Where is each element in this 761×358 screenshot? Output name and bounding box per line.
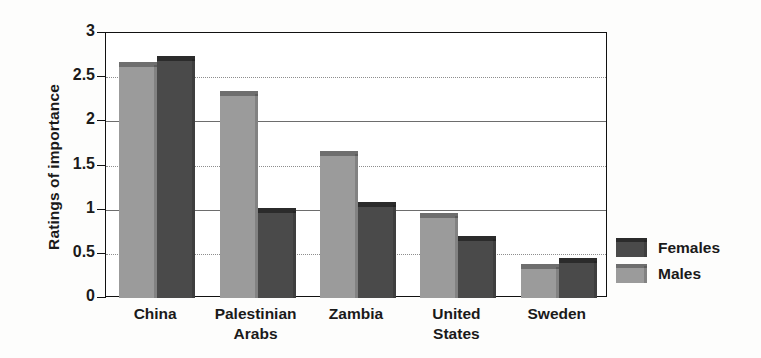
bar-front-face: [358, 207, 396, 298]
legend-label-females: Females: [658, 236, 720, 259]
bar-front-face: [157, 61, 195, 298]
bar-front-face: [559, 263, 597, 298]
y-axis-tick-label: 3: [35, 23, 95, 39]
bar-side-shade: [255, 94, 258, 298]
y-axis-tick: [97, 209, 106, 210]
y-axis-tick-label: 1: [35, 200, 95, 216]
bar-front-face: [458, 241, 496, 298]
bar-side-shade: [355, 154, 358, 298]
legend-label-males: Males: [658, 262, 701, 285]
bar-males-sweden: [521, 264, 559, 298]
y-axis-tick-label: 0: [35, 288, 95, 304]
bar-males-china: [119, 62, 157, 298]
bar-females-palestinian-arabs: [258, 208, 296, 298]
y-axis-tick: [97, 76, 106, 77]
bar-side-shade: [192, 59, 195, 298]
bar-front-face: [320, 156, 358, 298]
y-axis-tick: [97, 165, 106, 166]
plot-inner: [106, 33, 606, 296]
legend-swatch-females-icon: [616, 238, 647, 257]
bar-side-shade: [455, 216, 458, 298]
bar-males-zambia: [320, 151, 358, 298]
y-axis-tick-label: 2.5: [35, 67, 95, 83]
bar-front-face: [258, 213, 296, 298]
bar-front-face: [220, 96, 258, 298]
y-axis-tick: [97, 120, 106, 121]
bar-front-face: [119, 67, 157, 298]
bar-males-palestinian-arabs: [220, 91, 258, 298]
chart-figure: Ratings of importance 00.511.522.53 Chin…: [0, 0, 761, 358]
bar-front-face: [521, 269, 559, 298]
bar-side-shade: [154, 65, 157, 298]
y-axis-tick: [97, 297, 106, 298]
bar-females-united-states: [458, 236, 496, 298]
bar-females-sweden: [559, 258, 597, 298]
y-axis-tick-label: 1.5: [35, 156, 95, 172]
y-axis-tick-label: 0.5: [35, 244, 95, 260]
bar-females-china: [157, 56, 195, 298]
bar-side-shade: [556, 267, 559, 298]
bar-side-shade: [393, 205, 396, 298]
bar-males-united-states: [420, 213, 458, 298]
bar-side-shade: [293, 211, 296, 298]
bar-front-face: [420, 218, 458, 298]
x-axis-label-sweden: Sweden: [487, 304, 627, 324]
y-axis-tick: [97, 32, 106, 33]
bar-side-shade: [594, 261, 597, 298]
y-axis-tick: [97, 253, 106, 254]
bar-side-shade: [493, 239, 496, 298]
bar-females-zambia: [358, 202, 396, 298]
y-axis-tick-label: 2: [35, 111, 95, 127]
plot-area: [105, 32, 607, 297]
legend-swatch-males-icon: [616, 264, 647, 283]
